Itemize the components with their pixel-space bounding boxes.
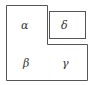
region-diagram: α β γ δ	[0, 0, 94, 85]
alpha-label: α	[21, 19, 29, 32]
delta-label: δ	[61, 19, 68, 32]
gamma-label: γ	[62, 57, 69, 70]
beta-label: β	[22, 57, 29, 70]
l-shaped-region	[7, 6, 88, 81]
